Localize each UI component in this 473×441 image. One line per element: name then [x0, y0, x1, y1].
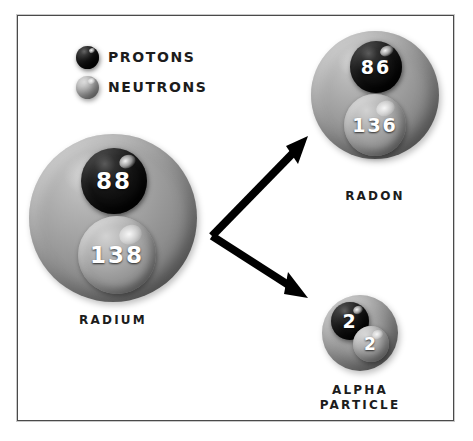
- radon-neutron-count: 136: [352, 116, 398, 135]
- decay-arrows: [190, 120, 330, 310]
- alpha-particle-label: ALPHA PARTICLE: [300, 383, 420, 413]
- alpha-neutron-sphere: 2: [353, 326, 389, 362]
- arrow-to-alpha-particle: [212, 236, 308, 298]
- legend-item-neutrons: NEUTRONS: [76, 74, 207, 100]
- legend-item-protons: PROTONS: [76, 44, 207, 70]
- alpha-proton-count: 2: [342, 312, 357, 331]
- legend: PROTONS NEUTRONS: [76, 44, 207, 104]
- radium-neutron-sphere: 138: [78, 216, 156, 294]
- diagram-canvas: PROTONS NEUTRONS 88 138 RADIUM 86 136 RA…: [0, 0, 473, 441]
- arrow-to-radon: [212, 136, 308, 236]
- radon-neutron-sphere: 136: [344, 94, 406, 156]
- radium-proton-count: 88: [96, 170, 132, 193]
- atom-radon: 86 136: [311, 31, 439, 161]
- alpha-neutron-count: 2: [364, 336, 378, 353]
- legend-item-protons-label: PROTONS: [108, 49, 195, 65]
- radon-proton-count: 86: [361, 58, 391, 77]
- light-sphere-icon: [76, 76, 99, 99]
- radium-proton-sphere: 88: [81, 148, 147, 214]
- atom-alpha-particle: 2 2: [322, 295, 398, 373]
- atom-radium: 88 138: [29, 134, 197, 304]
- radium-label: RADIUM: [29, 313, 197, 328]
- radon-proton-sphere: 86: [350, 41, 402, 93]
- dark-sphere-icon: [76, 46, 99, 69]
- legend-item-neutrons-label: NEUTRONS: [108, 79, 207, 95]
- radium-neutron-count: 138: [90, 244, 144, 267]
